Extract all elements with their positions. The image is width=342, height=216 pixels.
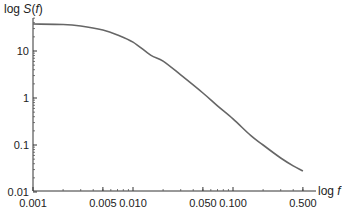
y-axis-title-var: S bbox=[23, 2, 31, 16]
major-ticks bbox=[33, 51, 303, 192]
x-axis-title-prefix: log bbox=[318, 184, 337, 198]
x-tick-label: 0.500 bbox=[289, 197, 317, 209]
y-tick-label: 0.1 bbox=[14, 139, 29, 151]
x-tick-label: 0.005 bbox=[89, 197, 117, 209]
axes bbox=[33, 18, 316, 191]
x-tick-label: 0.100 bbox=[219, 197, 247, 209]
x-tick-label: 0.010 bbox=[119, 197, 147, 209]
y-tick-label: 0.01 bbox=[8, 186, 29, 198]
x-axis-title-var: f bbox=[337, 184, 342, 198]
x-tick-label: 0.001 bbox=[19, 197, 47, 209]
tick-labels: 0.0010.0050.0100.0500.1000.5000.010.1110 bbox=[8, 45, 317, 209]
spectrum-chart: 0.0010.0050.0100.0500.1000.5000.010.1110… bbox=[0, 0, 342, 216]
y-axis-title: log S(f) bbox=[4, 2, 43, 16]
x-tick-label: 0.050 bbox=[189, 197, 217, 209]
y-tick-label: 1 bbox=[23, 92, 29, 104]
x-axis-title: log f bbox=[318, 184, 342, 198]
minor-ticks bbox=[33, 18, 303, 191]
y-tick-label: 10 bbox=[17, 45, 29, 57]
y-axis-title-prefix: log bbox=[4, 2, 23, 16]
spectrum-curve bbox=[33, 24, 303, 171]
y-axis-title-close: ) bbox=[39, 2, 43, 16]
